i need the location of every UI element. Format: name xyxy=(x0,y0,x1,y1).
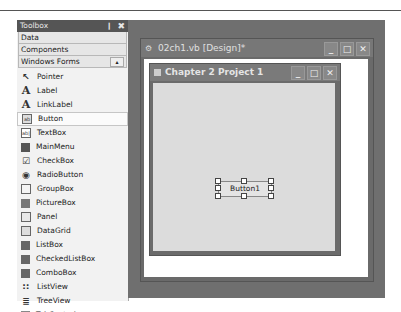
toolbox-item-listbox[interactable]: ListBox xyxy=(17,238,128,252)
toolbox-title: Toolbox xyxy=(20,21,48,30)
item-label: TabControl xyxy=(36,308,76,312)
datagrid-icon xyxy=(21,226,31,236)
document-title-bar[interactable]: ⚙ 02ch1.vb [Design]* _ □ ✕ xyxy=(141,39,373,57)
item-label: Button xyxy=(38,112,63,126)
pin-icon[interactable]: ❙ xyxy=(106,20,112,32)
form-minimize-button[interactable]: _ xyxy=(291,66,305,80)
resize-handle-sw[interactable] xyxy=(215,193,221,199)
form-icon xyxy=(154,69,161,76)
checkbox-icon: ☑ xyxy=(21,156,31,166)
toolbox-items-list: ↖Pointer ALabel ALinkLabel abButton ab|T… xyxy=(17,70,128,312)
item-label: ListBox xyxy=(36,238,63,252)
top-divider-line xyxy=(0,10,401,11)
toolbox-item-picturebox[interactable]: PictureBox xyxy=(17,196,128,210)
label-icon: A xyxy=(21,86,31,96)
tab-label: Data xyxy=(21,33,39,42)
form-window[interactable]: Chapter 2 Project 1 _ □ ✕ Button1 xyxy=(149,63,341,256)
linklabel-icon: A xyxy=(21,100,31,110)
listbox-icon xyxy=(21,241,30,250)
form-title: Chapter 2 Project 1 xyxy=(165,67,263,77)
item-label: ListView xyxy=(37,280,68,294)
designer-area: ⚙ 02ch1.vb [Design]* _ □ ✕ Chapter 2 Pro… xyxy=(128,20,385,298)
scroll-up-button[interactable]: ▴ xyxy=(110,57,124,67)
tab-label: Components xyxy=(21,45,68,54)
item-label: Pointer xyxy=(37,70,63,84)
item-label: PictureBox xyxy=(36,196,76,210)
item-label: LinkLabel xyxy=(37,98,73,112)
toolbox-item-mainmenu[interactable]: MainMenu xyxy=(17,140,128,154)
item-label: ComboBox xyxy=(36,266,76,280)
toolbox-tab-components[interactable]: Components xyxy=(18,44,127,56)
pointer-icon: ↖ xyxy=(21,72,31,82)
item-label: MainMenu xyxy=(36,140,75,154)
toolbox-item-panel[interactable]: Panel xyxy=(17,210,128,224)
treeview-icon: ≣ xyxy=(21,296,31,306)
resize-handle-e[interactable] xyxy=(268,185,274,191)
listview-icon: ∷ xyxy=(21,282,31,292)
form-maximize-button[interactable]: □ xyxy=(307,66,321,80)
toolbox-item-treeview[interactable]: ≣TreeView xyxy=(17,294,128,308)
resize-handle-n[interactable] xyxy=(241,178,247,184)
form-close-button[interactable]: ✕ xyxy=(323,66,337,80)
toolbox-item-checkbox[interactable]: ☑CheckBox xyxy=(17,154,128,168)
document-icon: ⚙ xyxy=(145,40,152,58)
item-label: Label xyxy=(37,84,57,98)
toolbox-title-bar: Toolbox ❙ ✖ xyxy=(17,20,128,32)
resize-handle-se[interactable] xyxy=(268,193,274,199)
picturebox-icon xyxy=(21,199,30,208)
resize-handle-ne[interactable] xyxy=(268,178,274,184)
toolbox-panel: Toolbox ❙ ✖ Data Components Windows Form… xyxy=(17,20,129,301)
toolbox-item-label[interactable]: ALabel xyxy=(17,84,128,98)
close-icon[interactable]: ✖ xyxy=(117,20,125,32)
combobox-icon xyxy=(21,269,30,278)
toolbox-item-radiobutton[interactable]: ◉RadioButton xyxy=(17,168,128,182)
groupbox-icon xyxy=(21,184,31,194)
checkedlistbox-icon xyxy=(21,255,30,264)
toolbox-item-checkedlistbox[interactable]: CheckedListBox xyxy=(17,252,128,266)
document-title: 02ch1.vb [Design]* xyxy=(158,43,245,53)
toolbox-item-datagrid[interactable]: DataGrid xyxy=(17,224,128,238)
toolbox-item-linklabel[interactable]: ALinkLabel xyxy=(17,98,128,112)
design-document-window: ⚙ 02ch1.vb [Design]* _ □ ✕ Chapter 2 Pro… xyxy=(140,38,374,282)
toolbox-item-combobox[interactable]: ComboBox xyxy=(17,266,128,280)
close-button[interactable]: ✕ xyxy=(356,42,370,56)
resize-handle-s[interactable] xyxy=(241,193,247,199)
tab-label: Windows Forms xyxy=(21,57,80,66)
resize-handle-nw[interactable] xyxy=(215,178,221,184)
document-client-area: Chapter 2 Project 1 _ □ ✕ Button1 xyxy=(144,59,368,277)
toolbox-tab-windows-forms[interactable]: Windows Forms ▴ xyxy=(18,56,127,68)
item-label: RadioButton xyxy=(37,168,83,182)
item-label: TreeView xyxy=(37,294,70,308)
toolbox-item-button[interactable]: abButton xyxy=(17,112,128,126)
button-icon: ab xyxy=(22,114,32,124)
toolbox-item-listview[interactable]: ∷ListView xyxy=(17,280,128,294)
toolbox-item-tabcontrol[interactable]: TabControl xyxy=(17,308,128,312)
resize-handle-w[interactable] xyxy=(215,185,221,191)
item-label: CheckBox xyxy=(37,154,74,168)
textbox-icon: ab| xyxy=(21,128,31,138)
item-label: DataGrid xyxy=(37,224,71,238)
minimize-button[interactable]: _ xyxy=(324,42,338,56)
mainmenu-icon xyxy=(21,143,30,152)
toolbox-item-pointer[interactable]: ↖Pointer xyxy=(17,70,128,84)
radiobutton-icon: ◉ xyxy=(21,170,31,180)
maximize-button[interactable]: □ xyxy=(340,42,354,56)
toolbox-tab-data[interactable]: Data xyxy=(18,32,127,44)
item-label: Panel xyxy=(37,210,57,224)
toolbox-item-textbox[interactable]: ab|TextBox xyxy=(17,126,128,140)
form-title-bar[interactable]: Chapter 2 Project 1 _ □ ✕ xyxy=(150,64,340,81)
item-label: CheckedListBox xyxy=(36,252,95,266)
panel-icon xyxy=(21,212,31,222)
item-label: TextBox xyxy=(37,126,66,140)
document-window-buttons: _ □ ✕ xyxy=(324,42,370,56)
item-label: GroupBox xyxy=(37,182,74,196)
toolbox-item-groupbox[interactable]: GroupBox xyxy=(17,182,128,196)
form-design-surface[interactable]: Button1 xyxy=(153,83,335,251)
form-window-buttons: _ □ ✕ xyxy=(291,66,337,80)
